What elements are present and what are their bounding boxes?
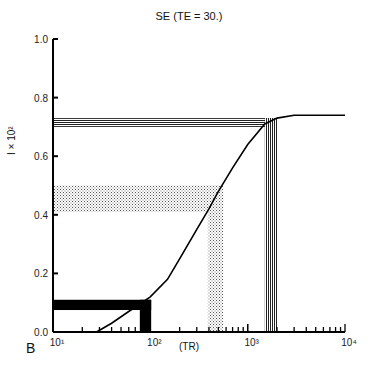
svg-text:10³: 10³: [244, 337, 259, 348]
band-vertical: [265, 118, 278, 332]
svg-text:1.0: 1.0: [34, 34, 48, 45]
band-horizontal: [53, 118, 278, 127]
svg-text:10⁴: 10⁴: [341, 337, 356, 348]
band-horizontal: [53, 186, 223, 212]
svg-text:0.0: 0.0: [34, 327, 48, 338]
svg-text:0.4: 0.4: [34, 210, 48, 221]
plot-area: 0.00.20.40.60.81.010¹10²10³10⁴: [0, 0, 378, 381]
band-horizontal: [53, 300, 151, 310]
svg-text:0.2: 0.2: [34, 268, 48, 279]
svg-text:0.8: 0.8: [34, 93, 48, 104]
svg-text:0.6: 0.6: [34, 151, 48, 162]
svg-text:10²: 10²: [147, 337, 162, 348]
svg-text:10¹: 10¹: [50, 337, 65, 348]
